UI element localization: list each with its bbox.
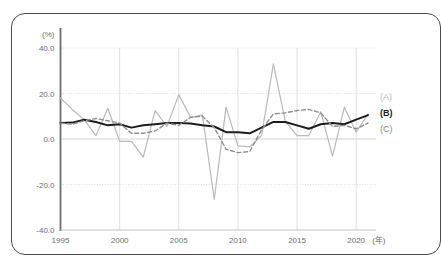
y-gridlines: [61, 48, 377, 230]
unit-labels: (%)(年): [42, 30, 386, 245]
y-tick-label: 0.0: [43, 135, 55, 144]
x-tick-label: 2005: [170, 236, 188, 245]
y-tick-labels: 40.020.00.0-20.0-40.0: [36, 44, 55, 235]
y-tick-label: 20.0: [39, 90, 55, 99]
series-lines: [61, 64, 369, 199]
x-tick-label: 2020: [347, 236, 365, 245]
x-tick-label: 1995: [52, 236, 70, 245]
y-tick-label: 40.0: [39, 44, 55, 53]
x-axis-unit-label: (年): [372, 235, 386, 245]
x-tick-labels: 199520002005201020152020: [52, 236, 366, 245]
x-tick-label: 2010: [229, 236, 247, 245]
legend-label-c: (C): [380, 124, 393, 134]
y-axis-unit-label: (%): [42, 30, 55, 39]
x-tick-label: 2015: [288, 236, 306, 245]
legend: (A)(B)(C): [380, 92, 393, 134]
y-tick-label: -20.0: [36, 181, 55, 190]
legend-label-b: (B): [380, 108, 393, 118]
series-line-a: [61, 64, 369, 199]
x-tick-label: 2000: [111, 236, 129, 245]
legend-label-a: (A): [380, 92, 392, 102]
y-tick-label: -40.0: [36, 226, 55, 235]
